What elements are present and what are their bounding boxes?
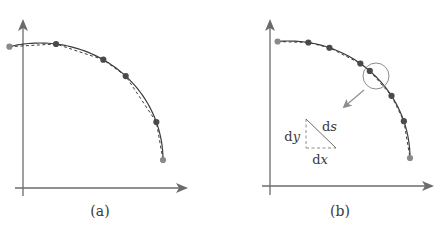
sample-point	[388, 93, 394, 99]
arc-length-figure: (a) dy ds dx (b)	[0, 0, 443, 233]
sample-point	[357, 60, 363, 66]
caption-a: (a)	[90, 203, 109, 219]
sample-point	[160, 157, 166, 163]
sample-point	[123, 73, 129, 79]
sample-point	[6, 44, 12, 50]
label-dx: dx	[312, 152, 328, 167]
sample-points	[6, 41, 166, 163]
smooth-curve	[9, 43, 163, 160]
sample-point	[367, 68, 373, 74]
panel-b: dy ds dx (b)	[262, 21, 432, 219]
sample-point	[305, 39, 311, 45]
sample-point	[53, 41, 59, 47]
sample-point	[401, 118, 407, 124]
sample-point	[100, 57, 106, 63]
panel-a: (a)	[6, 21, 186, 219]
label-ds: ds	[322, 119, 337, 134]
caption-b: (b)	[330, 203, 350, 219]
sample-point	[407, 155, 413, 161]
label-dy: dy	[284, 129, 300, 144]
sample-point	[153, 119, 159, 125]
sample-point	[326, 45, 332, 51]
polyline-approximation	[9, 44, 163, 160]
sample-point	[275, 38, 281, 44]
magnify-arrow	[344, 90, 364, 107]
